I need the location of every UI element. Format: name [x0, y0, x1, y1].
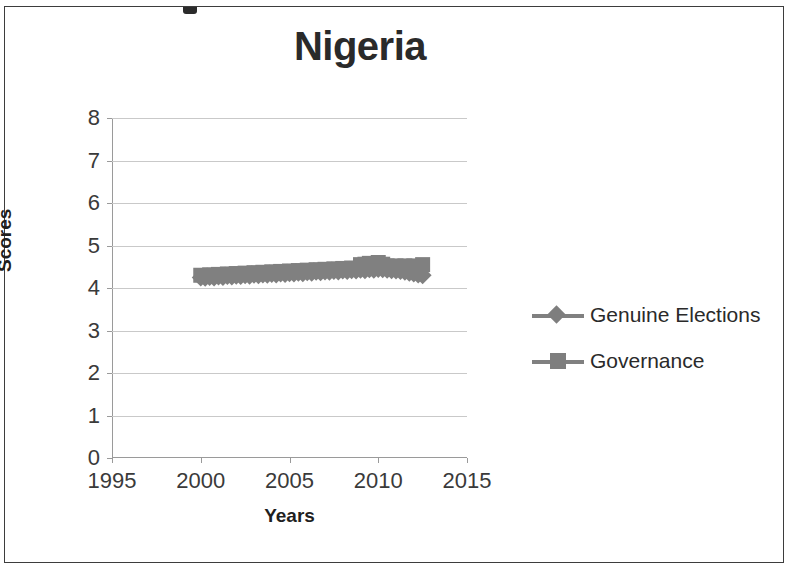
y-tick-label: 0: [60, 447, 100, 469]
y-axis-tick-labels: 012345678: [56, 118, 100, 458]
x-axis-title: Years: [112, 505, 467, 527]
y-tick-label: 2: [60, 362, 100, 384]
x-axis-tick-labels: 19952000200520102015: [0, 468, 580, 498]
x-tick-label: 1995: [88, 468, 137, 494]
x-tick: [378, 458, 379, 463]
y-tick-label: 3: [60, 320, 100, 342]
y-tick-label: 5: [60, 235, 100, 257]
y-tick-label: 7: [60, 150, 100, 172]
data-series-layer: [112, 118, 467, 458]
x-tick-label: 2005: [265, 468, 314, 494]
legend-item-genuine-elections[interactable]: Genuine Elections: [532, 292, 782, 338]
legend-label: Governance: [590, 349, 704, 373]
chart-title: Nigeria: [150, 24, 570, 69]
y-tick-label: 4: [60, 277, 100, 299]
x-tick: [201, 458, 202, 463]
legend-marker: [547, 305, 565, 323]
x-tick-label: 2015: [443, 468, 492, 494]
y-tick-label: 8: [60, 107, 100, 129]
x-tick: [290, 458, 291, 463]
legend-square-icon: [532, 351, 584, 371]
legend-item-governance[interactable]: Governance: [532, 338, 782, 384]
x-tick: [467, 458, 468, 463]
chart-nigeria: Nigeria Scores Years 012345678 199520002…: [0, 0, 800, 579]
y-tick-label: 6: [60, 192, 100, 214]
y-tick-label: 1: [60, 405, 100, 427]
marker-square: [415, 257, 430, 272]
plot-area: [112, 118, 467, 458]
x-tick-label: 2000: [176, 468, 225, 494]
legend-label: Genuine Elections: [590, 303, 760, 327]
legend-marker: [550, 353, 566, 369]
x-tick: [112, 458, 113, 463]
y-axis-title: Scores: [0, 209, 16, 272]
chart-legend: Genuine ElectionsGovernance: [532, 292, 782, 384]
legend-diamond-icon: [532, 305, 584, 325]
x-tick-label: 2010: [354, 468, 403, 494]
